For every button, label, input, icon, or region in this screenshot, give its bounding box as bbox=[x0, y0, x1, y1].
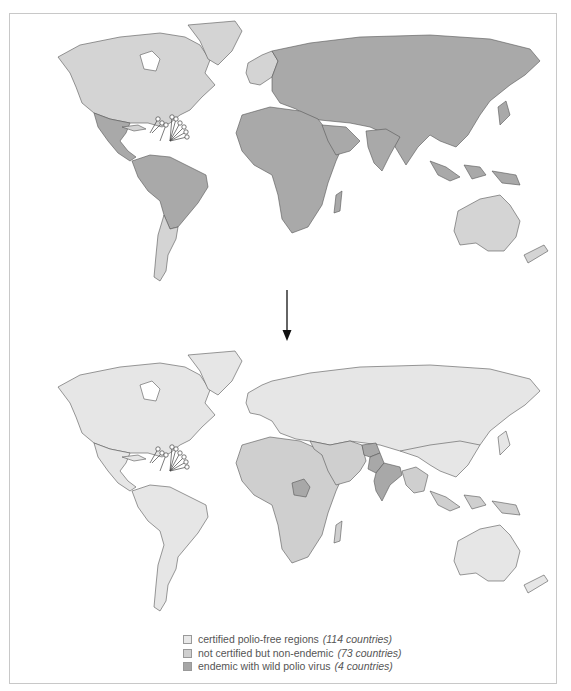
down-arrow-icon bbox=[281, 290, 293, 342]
region-new-zealand bbox=[524, 575, 548, 593]
legend-label: not certified but non-endemic bbox=[198, 647, 333, 661]
region-south-america-north bbox=[132, 155, 208, 229]
region-australia bbox=[454, 195, 520, 251]
map-legend: certified polio-free regions (114 countr… bbox=[183, 633, 402, 674]
legend-count: (4 countries) bbox=[334, 660, 392, 674]
region-north-america bbox=[58, 363, 215, 457]
legend-item-not-certified: not certified but non-endemic (73 countr… bbox=[183, 647, 402, 661]
world-map-before bbox=[10, 15, 558, 290]
legend-swatch-endemic bbox=[183, 662, 192, 671]
region-southeast-asia bbox=[402, 467, 428, 493]
legend-count: (114 countries) bbox=[323, 633, 392, 647]
legend-item-endemic: endemic with wild polio virus (4 countri… bbox=[183, 660, 402, 674]
region-north-america bbox=[58, 33, 215, 127]
legend-count: (73 countries) bbox=[337, 647, 401, 661]
world-map-after bbox=[10, 345, 558, 620]
legend-swatch-certified bbox=[183, 635, 192, 644]
legend-item-certified: certified polio-free regions (114 countr… bbox=[183, 633, 402, 647]
legend-swatch-not-certified bbox=[183, 649, 192, 658]
legend-label: endemic with wild polio virus bbox=[198, 660, 330, 674]
legend-label: certified polio-free regions bbox=[198, 633, 319, 647]
region-new-zealand bbox=[524, 245, 548, 263]
region-south-america bbox=[132, 485, 208, 611]
region-india bbox=[366, 129, 400, 171]
region-australia bbox=[454, 525, 520, 581]
